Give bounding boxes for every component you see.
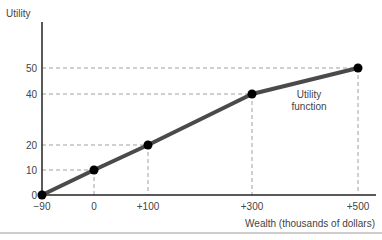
- y-tick-label: 10: [26, 165, 38, 176]
- x-axis-label: Wealth (thousands of dollars): [245, 218, 375, 229]
- y-tick-labels: 010204050: [26, 63, 38, 201]
- x-tick-label: +500: [347, 201, 370, 212]
- utility-curve: [42, 68, 358, 195]
- utility-chart: −900+100+300+500 010204050 Utility Wealt…: [0, 0, 382, 240]
- data-point: [90, 166, 99, 175]
- data-points: [38, 64, 363, 200]
- x-tick-label: −90: [34, 201, 51, 212]
- y-axis-label: Utility: [6, 8, 30, 19]
- y-tick-label: 50: [26, 63, 38, 74]
- x-tick-label: 0: [91, 201, 97, 212]
- data-point: [354, 64, 363, 73]
- y-tick-label: 0: [31, 190, 37, 201]
- data-point: [38, 191, 47, 200]
- curve-annotation-line2: function: [291, 101, 326, 112]
- dashed-guides: [42, 68, 358, 195]
- data-point: [248, 90, 257, 99]
- x-tick-label: +100: [137, 201, 160, 212]
- x-tick-labels: −900+100+300+500: [34, 201, 370, 212]
- curve-annotation-line1: Utility: [297, 89, 321, 100]
- data-point: [144, 141, 153, 150]
- y-tick-label: 40: [26, 89, 38, 100]
- x-tick-label: +300: [241, 201, 264, 212]
- y-tick-label: 20: [26, 140, 38, 151]
